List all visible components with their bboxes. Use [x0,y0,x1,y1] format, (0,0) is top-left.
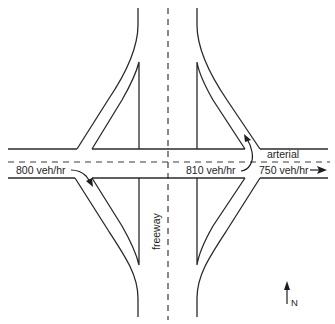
freeway-right-edge-south [197,178,260,317]
offramp-turn-arrow [241,134,252,171]
arterial-label: arterial [267,148,299,160]
freeway-label: freeway [150,212,162,250]
west-approach-flow-label: 800 veh/hr [16,164,66,176]
north-label: N [291,297,298,308]
ramp-northwest-inner [92,62,139,149]
ramp-northeast-inner [197,62,245,149]
ramp-southwest-inner [92,178,139,265]
interchange-diagram: arterial 800 veh/hr 810 veh/hr 750 veh/h… [0,0,335,324]
east-departure-arrow [310,166,327,174]
north-arrow-icon [284,281,290,304]
offramp-flow-label: 810 veh/hr [186,164,236,176]
freeway-right-edge-north [197,8,260,149]
freeway-left-edge-north [77,8,138,149]
freeway-left-edge-south [75,178,138,317]
east-departure-flow-label: 750 veh/hr [259,164,309,176]
ramp-southeast-inner [197,178,245,265]
